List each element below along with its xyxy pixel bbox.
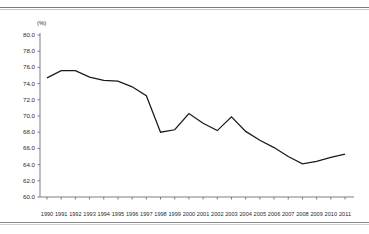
- bottom-divider-rule: [0, 222, 369, 223]
- bottom-divider-rule-secondary: [0, 224, 369, 225]
- chart-plot-area: [0, 0, 369, 234]
- data-series-line: [47, 71, 345, 164]
- line-chart: (%) 80.078.076.074.072.070.068.066.064.0…: [0, 0, 369, 234]
- chart-page: (%) 80.078.076.074.072.070.068.066.064.0…: [0, 0, 369, 234]
